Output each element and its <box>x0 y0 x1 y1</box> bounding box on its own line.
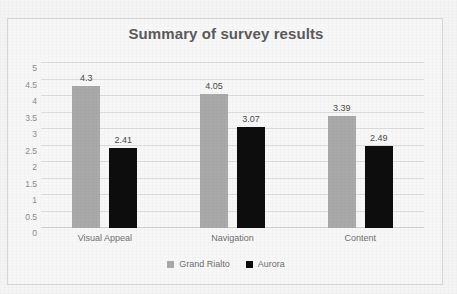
legend-label: Aurora <box>258 259 285 269</box>
chart-title: Summary of survey results <box>8 25 444 42</box>
chart-legend: Grand RialtoAurora <box>8 259 444 269</box>
legend-label: Grand Rialto <box>179 259 230 269</box>
bar-value-label: 2.49 <box>370 133 388 143</box>
chart-container: Summary of survey results 00.511.522.533… <box>7 18 443 285</box>
bar[interactable] <box>365 146 393 228</box>
bar[interactable] <box>328 116 356 228</box>
bar[interactable] <box>109 148 137 228</box>
legend-swatch-icon <box>246 261 253 268</box>
bar[interactable] <box>72 86 100 228</box>
legend-swatch-icon <box>167 261 174 268</box>
bar[interactable] <box>200 94 228 228</box>
gridline <box>41 79 424 80</box>
x-axis-category-label: Content <box>344 233 376 243</box>
legend-item[interactable]: Grand Rialto <box>167 259 230 269</box>
x-axis-category-labels: Visual AppealNavigationContent <box>41 233 424 251</box>
bar-value-label: 3.39 <box>333 103 351 113</box>
legend-item[interactable]: Aurora <box>246 259 285 269</box>
y-axis-tick-labels: 00.511.522.533.544.55 <box>8 63 41 228</box>
bar-value-label: 3.07 <box>242 114 260 124</box>
plot-area: 4.32.414.053.073.392.49 <box>41 63 424 228</box>
bar[interactable] <box>237 127 265 228</box>
gridline <box>41 62 424 63</box>
bar-value-label: 4.3 <box>80 73 93 83</box>
x-axis-category-label: Visual Appeal <box>78 233 132 243</box>
bar-value-label: 4.05 <box>205 81 223 91</box>
x-axis-category-label: Navigation <box>211 233 254 243</box>
bar-value-label: 2.41 <box>115 135 133 145</box>
